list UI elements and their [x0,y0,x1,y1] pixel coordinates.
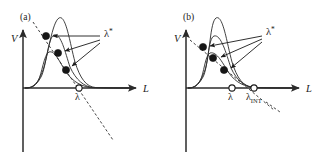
panel-b-locus-tail [266,102,280,112]
figure-canvas: (a) V L λ λ* (b) V L [0,0,326,159]
panel-b: (b) V L λ λINT λ* [174,12,312,152]
panel-b-lambda-star-point-2 [209,54,216,61]
panel-a-lambda-star-point-2 [54,49,61,56]
panel-a-y-axis-label: V [11,33,19,44]
panel-b-lambda-int-sub: INT [251,97,262,104]
panel-b-lambda-star-sup: * [271,25,275,34]
panel-b-lambda-label: λ [228,91,233,102]
panel-b-x-axis-label: L [305,83,312,94]
panel-a-lambda-star-label: λ* [104,27,113,40]
panel-b-lambda-int-axis-point [251,85,257,91]
panel-a-arrow-3 [72,43,100,66]
panel-a-lambda-star-sup: * [109,27,113,36]
panel-a-label: (a) [20,12,31,23]
panel-a: (a) V L λ λ* [11,12,149,152]
panel-b-lambda-star-point-1 [199,43,206,50]
panel-a-lambda-label: λ [75,91,80,102]
panel-a-x-axis-label: L [142,83,149,94]
panel-b-lambda-star-point-3 [220,66,227,73]
panel-b-label: (b) [183,12,194,23]
panel-b-y-axis-label: V [174,33,182,44]
panel-a-curve-short [25,52,133,88]
panel-b-curve-tall [188,18,296,88]
panel-b-lambda-star-label: λ* [266,25,275,38]
panel-a-curve-medium [25,35,133,88]
panel-a-lambda-star-point-1 [42,32,49,39]
panel-a-lambda-star-point-3 [62,66,69,73]
